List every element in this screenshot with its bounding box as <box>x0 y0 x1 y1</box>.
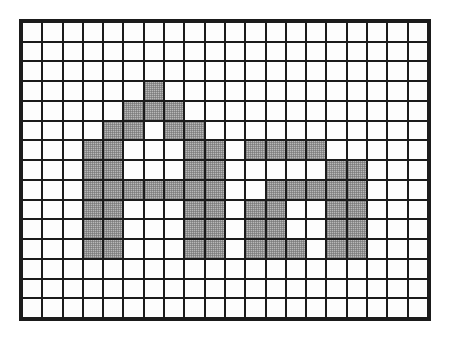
grid-cell-empty[interactable] <box>165 23 183 41</box>
grid-cell-empty[interactable] <box>206 260 224 278</box>
grid-cell-empty[interactable] <box>327 23 345 41</box>
grid-cell-empty[interactable] <box>165 299 183 317</box>
grid-cell-empty[interactable] <box>145 240 163 258</box>
grid-cell-shaded[interactable] <box>145 82 163 100</box>
grid-cell-empty[interactable] <box>145 299 163 317</box>
grid-cell-empty[interactable] <box>307 161 325 179</box>
grid-cell-empty[interactable] <box>409 122 427 140</box>
grid-cell-empty[interactable] <box>327 141 345 159</box>
grid-cell-empty[interactable] <box>327 299 345 317</box>
grid-cell-empty[interactable] <box>368 43 386 61</box>
grid-cell-empty[interactable] <box>84 122 102 140</box>
grid-cell-shaded[interactable] <box>267 181 285 199</box>
grid-cell-shaded[interactable] <box>165 102 183 120</box>
grid-cell-empty[interactable] <box>104 43 122 61</box>
grid-cell-empty[interactable] <box>267 122 285 140</box>
grid-cell-empty[interactable] <box>226 122 244 140</box>
grid-cell-empty[interactable] <box>409 43 427 61</box>
grid-cell-empty[interactable] <box>165 280 183 298</box>
grid-cell-empty[interactable] <box>307 280 325 298</box>
grid-cell-empty[interactable] <box>23 260 41 278</box>
grid-cell-empty[interactable] <box>388 102 406 120</box>
grid-cell-empty[interactable] <box>23 181 41 199</box>
grid-cell-empty[interactable] <box>64 220 82 238</box>
grid-cell-shaded[interactable] <box>206 141 224 159</box>
grid-cell-shaded[interactable] <box>287 240 305 258</box>
grid-cell-shaded[interactable] <box>104 240 122 258</box>
grid-cell-empty[interactable] <box>368 161 386 179</box>
grid-cell-empty[interactable] <box>23 122 41 140</box>
grid-cell-shaded[interactable] <box>84 141 102 159</box>
grid-cell-shaded[interactable] <box>165 122 183 140</box>
grid-cell-shaded[interactable] <box>185 161 203 179</box>
grid-cell-shaded[interactable] <box>206 181 224 199</box>
grid-cell-empty[interactable] <box>104 299 122 317</box>
grid-cell-shaded[interactable] <box>307 181 325 199</box>
grid-cell-empty[interactable] <box>409 220 427 238</box>
grid-cell-empty[interactable] <box>185 102 203 120</box>
grid-cell-empty[interactable] <box>104 82 122 100</box>
grid-cell-empty[interactable] <box>43 240 61 258</box>
grid-cell-empty[interactable] <box>368 102 386 120</box>
grid-cell-empty[interactable] <box>84 299 102 317</box>
grid-cell-empty[interactable] <box>388 299 406 317</box>
grid-cell-empty[interactable] <box>165 161 183 179</box>
grid-cell-empty[interactable] <box>307 240 325 258</box>
grid-cell-empty[interactable] <box>124 260 142 278</box>
grid-cell-empty[interactable] <box>226 43 244 61</box>
grid-cell-empty[interactable] <box>246 82 264 100</box>
grid-cell-empty[interactable] <box>43 161 61 179</box>
grid-cell-empty[interactable] <box>43 201 61 219</box>
grid-cell-empty[interactable] <box>348 141 366 159</box>
grid-cell-empty[interactable] <box>287 260 305 278</box>
grid-cell-empty[interactable] <box>287 82 305 100</box>
grid-cell-shaded[interactable] <box>327 240 345 258</box>
grid-cell-empty[interactable] <box>368 260 386 278</box>
grid-cell-empty[interactable] <box>64 181 82 199</box>
grid-cell-empty[interactable] <box>368 181 386 199</box>
grid-cell-empty[interactable] <box>185 260 203 278</box>
grid-cell-empty[interactable] <box>368 220 386 238</box>
grid-cell-empty[interactable] <box>348 43 366 61</box>
grid-cell-shaded[interactable] <box>287 181 305 199</box>
grid-cell-empty[interactable] <box>409 280 427 298</box>
grid-cell-empty[interactable] <box>246 299 264 317</box>
grid-cell-empty[interactable] <box>64 280 82 298</box>
grid-cell-empty[interactable] <box>84 62 102 80</box>
grid-cell-empty[interactable] <box>43 280 61 298</box>
grid-cell-shaded[interactable] <box>124 181 142 199</box>
grid-cell-shaded[interactable] <box>348 181 366 199</box>
grid-cell-empty[interactable] <box>246 43 264 61</box>
grid-cell-empty[interactable] <box>64 260 82 278</box>
grid-cell-empty[interactable] <box>368 299 386 317</box>
grid-cell-empty[interactable] <box>84 102 102 120</box>
grid-cell-empty[interactable] <box>348 23 366 41</box>
grid-cell-empty[interactable] <box>206 62 224 80</box>
grid-cell-empty[interactable] <box>64 299 82 317</box>
grid-cell-empty[interactable] <box>84 43 102 61</box>
grid-cell-empty[interactable] <box>287 102 305 120</box>
grid-cell-empty[interactable] <box>307 82 325 100</box>
grid-cell-empty[interactable] <box>409 161 427 179</box>
grid-cell-empty[interactable] <box>145 62 163 80</box>
grid-cell-empty[interactable] <box>124 280 142 298</box>
grid-cell-shaded[interactable] <box>84 201 102 219</box>
grid-cell-shaded[interactable] <box>267 240 285 258</box>
grid-cell-empty[interactable] <box>185 43 203 61</box>
grid-cell-empty[interactable] <box>267 102 285 120</box>
grid-cell-empty[interactable] <box>23 201 41 219</box>
grid-cell-empty[interactable] <box>287 220 305 238</box>
grid-cell-empty[interactable] <box>145 280 163 298</box>
grid-cell-empty[interactable] <box>368 201 386 219</box>
grid-cell-empty[interactable] <box>368 62 386 80</box>
grid-cell-empty[interactable] <box>64 240 82 258</box>
grid-cell-empty[interactable] <box>327 82 345 100</box>
grid-cell-empty[interactable] <box>307 299 325 317</box>
grid-cell-empty[interactable] <box>287 161 305 179</box>
grid-cell-empty[interactable] <box>43 299 61 317</box>
grid-cell-empty[interactable] <box>409 299 427 317</box>
grid-cell-empty[interactable] <box>145 161 163 179</box>
grid-cell-empty[interactable] <box>206 43 224 61</box>
grid-cell-empty[interactable] <box>64 62 82 80</box>
grid-cell-shaded[interactable] <box>185 201 203 219</box>
